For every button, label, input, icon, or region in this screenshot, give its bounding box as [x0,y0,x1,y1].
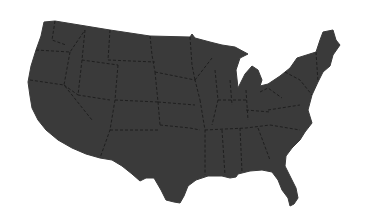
us-land-silhouette [28,21,340,206]
us-map [0,0,368,220]
